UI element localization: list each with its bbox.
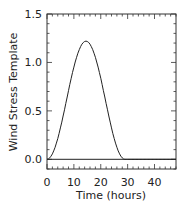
x-tick-label: 30 [121,176,135,189]
x-tick-label: 10 [67,176,81,189]
y-tick-label: 1.0 [25,56,43,69]
y-axis-label: Wind Stress Template [7,32,20,151]
x-tick-label: 0 [44,176,51,189]
plot-frame [47,14,176,169]
data-series [47,41,176,159]
y-tick-label: 0.5 [25,105,43,118]
x-tick-label: 40 [148,176,162,189]
x-tick-label: 20 [94,176,108,189]
series-line [47,41,176,159]
y-tick-label: 1.5 [25,8,43,21]
wind-stress-chart: 010203040 0.00.51.01.5 Time (hours) Wind… [0,0,185,209]
x-axis-label: Time (hours) [75,189,146,202]
y-tick-label: 0.0 [25,153,43,166]
x-axis-ticks: 010203040 [44,14,177,189]
